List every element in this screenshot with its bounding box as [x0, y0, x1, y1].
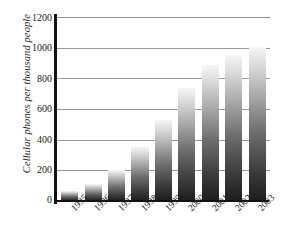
- y-tick-label-200: 200: [6, 164, 52, 175]
- y-tick-label-1000: 1000: [6, 42, 52, 53]
- y-axis-tick-group: 1200 1000 800 600 400 200 0: [0, 0, 52, 241]
- x-axis-tick-group: 199519961997199819992000200120022003: [57, 202, 268, 241]
- y-tick-label-1200: 1200: [6, 12, 52, 23]
- bar-chart: Cellular phones per thousand people 1200…: [0, 0, 284, 241]
- bar-2001: [202, 65, 219, 201]
- bar-1998: [131, 147, 148, 201]
- bar-group: [57, 17, 268, 201]
- bar-1999: [155, 120, 172, 201]
- y-axis-line: [54, 14, 57, 204]
- bar-1997: [108, 170, 125, 201]
- y-tick-label-0: 0: [6, 194, 52, 205]
- bar-2003: [249, 47, 266, 201]
- bar-2000: [178, 88, 195, 201]
- y-tick-label-800: 800: [6, 73, 52, 84]
- bar-2002: [225, 55, 242, 201]
- y-tick-label-600: 600: [6, 103, 52, 114]
- plot-area: [57, 17, 268, 201]
- y-tick-label-400: 400: [6, 134, 52, 145]
